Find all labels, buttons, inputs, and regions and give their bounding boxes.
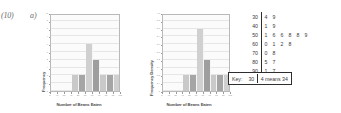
leaf-group: 57 [262,59,281,65]
leaf-value: 6 [273,32,281,38]
y-axis-tick-label: 3 [36,67,48,70]
x-axis-tick-mark [120,92,121,94]
y-axis-tick-mark [49,53,51,54]
histogram-bar [100,75,107,91]
leaf-group: 166889 [262,32,313,38]
y-axis-tick-label: 0.4 [146,59,160,62]
y-axis-tick-mark [49,30,51,31]
x-axis-tick-mark [203,92,204,94]
y-axis-tick-label: 0 [146,91,160,94]
y-axis-tick-label: 7 [36,36,48,39]
y-axis-tick-mark [49,37,51,38]
y-axis-tick-mark [161,76,163,77]
x-axis-tick-mark [113,92,114,94]
gridline [163,20,229,21]
stem-value: 60 [243,41,261,47]
leaf-group: 49 [262,14,281,20]
y-axis-tick-label: 6 [36,44,48,47]
key-stem: 30 [248,76,256,82]
y-axis-tick-label: 0.6 [146,44,160,47]
y-axis-tick-label: 0.2 [146,75,160,78]
x-axis-tick-mark [216,92,217,94]
chart-a-x-axis-label: Number of Beans Eaten [36,102,122,107]
y-axis-tick-label: 0.5 [146,52,160,55]
y-axis-tick-mark [49,61,51,62]
leaf-value: 1 [265,23,273,29]
leaf-value: 8 [297,32,305,38]
stem-leaf-row: 4019 [243,21,313,30]
gridline [51,35,119,36]
x-axis-tick-mark [64,92,65,94]
x-axis-tick-label: 100 [115,95,125,98]
x-axis-tick-mark [106,92,107,94]
leaf-value: 8 [289,32,297,38]
y-axis-tick-mark [161,69,163,70]
x-axis-tick-mark [99,92,100,94]
gridline [163,43,229,44]
chart-b-x-axis-label: Number of Beans Eaten [146,102,232,107]
leaf-value: 0 [265,41,273,47]
x-axis-tick-mark [189,92,190,94]
leaf-value: 0 [265,50,273,56]
x-axis-tick-mark [230,92,231,94]
y-axis-tick-label: 0 [36,91,48,94]
x-axis-tick-mark [176,92,177,94]
y-axis-tick-label: 2 [36,75,48,78]
leaf-value: 2 [281,41,289,47]
histogram-bar [79,75,86,91]
y-axis-tick-label: 0.3 [146,67,160,70]
histogram-bar [72,75,79,91]
stem-value: 80 [243,59,261,65]
y-axis-tick-mark [161,37,163,38]
y-axis-tick-mark [161,84,163,85]
histogram-bar [86,44,93,91]
key-means: 4 means 34 [258,76,288,82]
key-label: Key: [232,76,248,82]
leaf-group: 08 [262,50,281,56]
histogram-bar [204,60,211,91]
gridline [163,51,229,52]
x-axis-tick-mark [78,92,79,94]
leaf-value: 4 [265,14,273,20]
leaf-value: 6 [281,32,289,38]
y-axis-tick-mark [161,30,163,31]
frequency-histogram: Frequency Number of Beans Eaten 01234567… [36,12,122,110]
gridline [51,59,119,60]
y-axis-tick-label: 8 [36,28,48,31]
leaf-value: 9 [273,14,281,20]
y-axis-tick-mark [161,45,163,46]
x-axis-tick-mark [71,92,72,94]
stem-leaf-row: 600128 [243,39,313,48]
x-axis-tick-mark [162,92,163,94]
leaf-value: 9 [273,23,281,29]
gridline [163,67,229,68]
stem-leaf-key: Key: 30 4 means 34 [228,72,292,85]
y-axis-tick-mark [161,22,163,23]
y-axis-tick-mark [161,61,163,62]
gridline [51,28,119,29]
x-axis-tick-mark [85,92,86,94]
x-axis-tick-mark [92,92,93,94]
y-axis-tick-label: 4 [36,59,48,62]
stem-value: 40 [243,23,261,29]
histogram-bar [197,29,204,91]
x-axis-tick-mark [169,92,170,94]
y-axis-tick-mark [49,22,51,23]
stem-leaf-row: 8057 [243,57,313,66]
leaf-group: 0128 [262,41,297,47]
stem-and-leaf-plot: 3049401950166889600128700880579017 [243,12,313,75]
y-axis-tick-label: 9 [36,20,48,23]
stem-leaf-row: 3049 [243,12,313,21]
leaf-value: 5 [265,59,273,65]
leaf-value: 1 [265,32,273,38]
leaf-group: 19 [262,23,281,29]
histogram-bar [211,75,218,91]
histogram-bar [190,75,197,91]
leaf-value: 7 [273,59,281,65]
x-axis-tick-mark [182,92,183,94]
worksheet-figure: (10) a) b) Frequency Number of Beans Eat… [0,0,341,113]
histogram-bar [93,60,100,91]
x-axis-tick-mark [210,92,211,94]
stem-value: 70 [243,50,261,56]
leaf-value: 8 [273,50,281,56]
